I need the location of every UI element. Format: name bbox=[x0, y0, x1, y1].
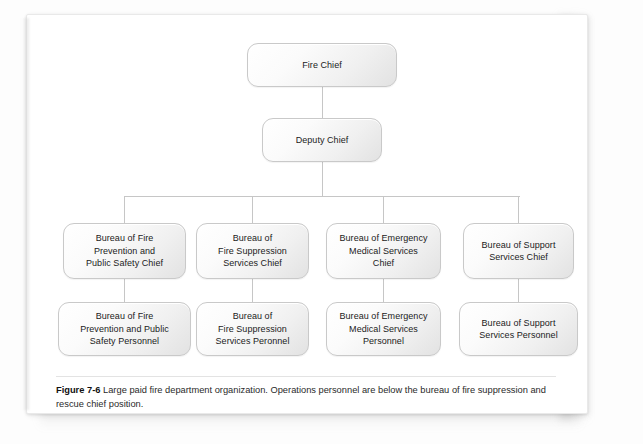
connector-bus-to-bureau-support-chief bbox=[518, 196, 519, 223]
figure-caption-text: Large paid fire department organization.… bbox=[56, 385, 546, 409]
connector-bus-to-bureau-fire-prevention-chief bbox=[124, 196, 125, 223]
node-bureau-fire-prevention-personnel-label: Bureau of Fire Prevention and Public Saf… bbox=[80, 310, 169, 348]
node-fire-chief-label: Fire Chief bbox=[302, 59, 342, 72]
node-bureau-fire-suppression-chief[interactable]: Bureau of Fire Suppression Services Chie… bbox=[196, 223, 309, 279]
connector-support-chief-to-personnel bbox=[518, 279, 519, 302]
node-bureau-support-personnel[interactable]: Bureau of Support Services Personnel bbox=[459, 302, 578, 356]
connector-bus-to-bureau-ems-chief bbox=[383, 196, 384, 223]
node-bureau-ems-chief[interactable]: Bureau of Emergency Medical Services Chi… bbox=[326, 223, 441, 279]
node-bureau-fire-prevention-chief[interactable]: Bureau of Fire Prevention and Public Saf… bbox=[63, 223, 186, 279]
node-bureau-fire-suppression-chief-label: Bureau of Fire Suppression Services Chie… bbox=[218, 232, 287, 270]
connector-fire-suppression-chief-to-personnel bbox=[252, 279, 253, 302]
figure-number: Figure 7-6 bbox=[56, 385, 100, 395]
connector-deputy-chief-to-bus bbox=[322, 162, 323, 196]
node-bureau-fire-suppression-personnel-label: Bureau of Fire Suppression Services Pero… bbox=[216, 310, 290, 348]
connector-bus-to-bureau-fire-suppression-chief bbox=[252, 196, 253, 223]
node-deputy-chief[interactable]: Deputy Chief bbox=[262, 118, 382, 162]
node-bureau-support-personnel-label: Bureau of Support Services Personnel bbox=[479, 317, 557, 342]
node-bureau-fire-prevention-chief-label: Bureau of Fire Prevention and Public Saf… bbox=[86, 232, 163, 270]
node-bureau-ems-chief-label: Bureau of Emergency Medical Services Chi… bbox=[340, 232, 428, 270]
node-bureau-fire-suppression-personnel[interactable]: Bureau of Fire Suppression Services Pero… bbox=[196, 302, 309, 356]
org-chart: Fire Chief Deputy Chief Bureau of Fire P… bbox=[26, 14, 586, 412]
caption-divider bbox=[56, 376, 556, 377]
connector-ems-chief-to-personnel bbox=[383, 279, 384, 302]
figure-page: Fire Chief Deputy Chief Bureau of Fire P… bbox=[0, 0, 643, 444]
connector-bus-horizontal bbox=[124, 196, 520, 197]
connector-fire-prevention-chief-to-personnel bbox=[124, 279, 125, 302]
node-fire-chief[interactable]: Fire Chief bbox=[247, 43, 397, 87]
figure-caption: Figure 7-6 Large paid fire department or… bbox=[56, 384, 564, 411]
node-bureau-support-chief[interactable]: Bureau of Support Services Chief bbox=[463, 223, 574, 279]
node-bureau-fire-prevention-personnel[interactable]: Bureau of Fire Prevention and Public Saf… bbox=[58, 302, 191, 356]
node-bureau-ems-personnel[interactable]: Bureau of Emergency Medical Services Per… bbox=[326, 302, 441, 356]
node-bureau-ems-personnel-label: Bureau of Emergency Medical Services Per… bbox=[340, 310, 428, 348]
node-bureau-support-chief-label: Bureau of Support Services Chief bbox=[482, 239, 556, 264]
node-deputy-chief-label: Deputy Chief bbox=[296, 134, 349, 147]
